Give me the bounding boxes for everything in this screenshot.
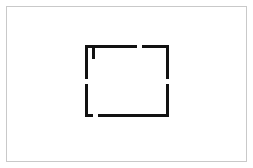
drawing-canvas <box>0 0 253 168</box>
floor-plan-svg <box>0 0 253 168</box>
canvas-background <box>0 0 253 168</box>
